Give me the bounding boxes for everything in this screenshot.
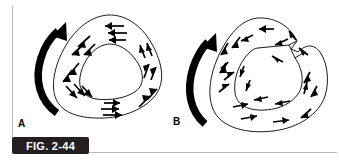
panel-a-group	[38, 15, 162, 119]
figure-caption-bar: FIG. 2-44	[12, 137, 89, 154]
figure-caption-label: FIG. 2-44	[26, 140, 75, 152]
figure-container: A B FIG. 2-44	[0, 0, 339, 161]
panel-label-a: A	[18, 118, 25, 129]
panel-label-b: B	[173, 116, 180, 127]
panel-b-group	[190, 18, 328, 132]
